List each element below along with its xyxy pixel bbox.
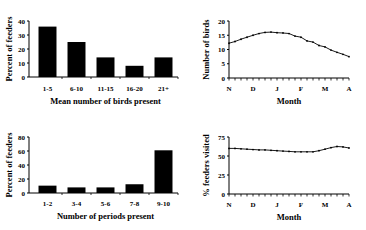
data-point <box>282 150 284 152</box>
y-tick-label: 80 <box>18 134 26 142</box>
x-tick-label: A <box>346 85 351 93</box>
data-point <box>312 41 314 43</box>
x-tick-label: M <box>322 201 329 209</box>
data-point <box>264 32 266 34</box>
data-point <box>306 151 308 153</box>
y-tick-label: 0 <box>22 74 26 82</box>
x-tick-label: 3-4 <box>72 200 82 208</box>
data-point <box>306 40 308 42</box>
y-axis-title: Percent of feeders <box>4 132 14 198</box>
x-tick-label: D <box>250 85 255 93</box>
data-point <box>300 36 302 38</box>
data-point <box>288 151 290 153</box>
x-tick-label: F <box>299 201 303 209</box>
x-axis-title: Month <box>277 212 302 222</box>
x-tick-label: 1-5 <box>43 85 53 93</box>
y-tick-label: 40 <box>18 18 26 26</box>
data-point <box>270 149 272 151</box>
data-point <box>264 149 266 151</box>
data-point <box>240 148 242 150</box>
data-point <box>324 148 326 150</box>
data-point <box>228 148 230 150</box>
data-point <box>330 147 332 149</box>
y-tick-label: 60 <box>18 148 26 156</box>
bar <box>126 184 144 193</box>
bar <box>39 186 57 193</box>
y-tick-label: 20 <box>18 176 26 184</box>
x-tick-label: N <box>226 85 231 93</box>
data-point <box>294 35 296 37</box>
line-chart-number-of-birds: 05101520Number of birdsMonthNDJFMA <box>183 0 366 115</box>
data-point <box>258 149 260 151</box>
x-tick-label: 7-8 <box>130 200 140 208</box>
x-axis-title: Number of periods present <box>57 211 154 221</box>
y-tick-label: 75 <box>218 134 226 142</box>
data-point <box>288 33 290 35</box>
data-point <box>312 151 314 153</box>
y-tick-label: 40 <box>18 162 26 170</box>
x-tick-label: 5-6 <box>101 200 111 208</box>
data-point <box>324 46 326 48</box>
y-tick-label: 30 <box>18 32 26 40</box>
data-point <box>336 51 338 53</box>
data-point <box>240 38 242 40</box>
x-tick-label: D <box>250 201 255 209</box>
x-axis-title: Mean number of birds present <box>50 96 161 106</box>
y-tick-label: 10 <box>18 60 26 68</box>
data-point <box>348 147 350 149</box>
x-tick-label: J <box>275 85 279 93</box>
y-tick-label: 0 <box>22 190 26 198</box>
bar-chart-mean-birds: 010203040Percent of feedersMean number o… <box>0 0 183 115</box>
data-point <box>276 150 278 152</box>
y-tick-label: 15 <box>218 32 226 40</box>
y-tick-label: 0 <box>222 191 226 199</box>
x-tick-label: A <box>346 201 351 209</box>
data-point <box>348 56 350 58</box>
x-tick-label: 6-10 <box>70 85 83 93</box>
data-point <box>318 150 320 152</box>
x-tick-label: 11-15 <box>98 85 114 93</box>
data-point <box>318 45 320 47</box>
chart-periods-present: 020406080Percent of feedersNumber of per… <box>0 115 183 230</box>
data-point <box>270 31 272 33</box>
data-point <box>330 49 332 51</box>
data-point <box>342 53 344 55</box>
bar <box>97 187 115 193</box>
y-tick-label: 25 <box>218 172 226 180</box>
data-line <box>229 32 349 57</box>
data-point <box>282 32 284 34</box>
y-tick-label: 0 <box>222 75 226 83</box>
data-point <box>246 36 248 38</box>
y-tick-label: 5 <box>222 60 226 68</box>
bar <box>155 150 173 193</box>
bar <box>97 57 115 77</box>
x-tick-label: F <box>299 85 303 93</box>
y-axis-title: Number of birds <box>201 19 211 80</box>
x-tick-label: 9-10 <box>157 200 170 208</box>
x-axis-title: Month <box>277 96 302 106</box>
y-tick-label: 20 <box>18 46 26 54</box>
data-point <box>252 34 254 36</box>
chart-feeders-visited: 0255075% feeders visitedMonthNDJFMA <box>183 115 366 230</box>
data-point <box>294 151 296 153</box>
data-point <box>234 148 236 150</box>
chart-birds-by-month: 05101520Number of birdsMonthNDJFMA <box>183 0 366 115</box>
data-point <box>300 151 302 153</box>
chart-birds-per-feeder: 010203040Percent of feedersMean number o… <box>0 0 183 115</box>
data-point <box>276 32 278 34</box>
bar <box>39 27 57 77</box>
x-tick-label: 1-2 <box>43 200 53 208</box>
bar <box>155 57 173 77</box>
bar <box>68 187 86 193</box>
y-axis-title: % feeders visited <box>201 134 211 197</box>
y-tick-label: 10 <box>218 46 226 54</box>
data-point <box>258 33 260 35</box>
data-point <box>342 146 344 148</box>
data-point <box>336 146 338 148</box>
bar <box>68 42 86 77</box>
x-tick-label: J <box>275 201 279 209</box>
x-tick-label: 16-20 <box>126 85 143 93</box>
bar-chart-periods-present: 020406080Percent of feedersNumber of per… <box>0 115 183 230</box>
y-axis-title: Percent of feeders <box>4 16 14 82</box>
y-tick-label: 20 <box>218 18 226 26</box>
